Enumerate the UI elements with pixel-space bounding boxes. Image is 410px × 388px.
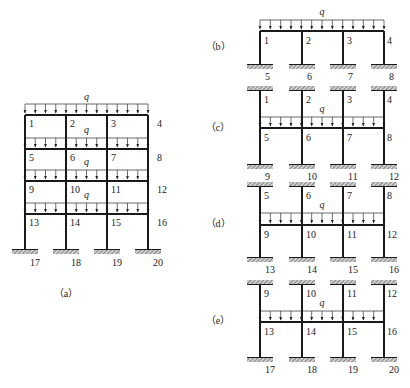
arrowhead-icon: [372, 123, 375, 127]
arrowhead-icon: [290, 220, 293, 224]
arrowhead-icon: [352, 123, 355, 127]
node-number: 10: [70, 184, 80, 195]
arrowhead-icon: [300, 26, 303, 30]
subframe-d: q5913610147111581216（d）: [206, 182, 400, 275]
bottom-node-number: 7: [348, 71, 353, 82]
arrowhead-icon: [372, 220, 375, 224]
node-number: 3: [111, 118, 116, 129]
arrowhead-icon: [95, 209, 98, 213]
base-node-number: 20: [153, 257, 163, 268]
beam-node-number: 11: [347, 229, 357, 240]
arrowhead-icon: [290, 26, 293, 30]
arrowhead-icon: [269, 220, 272, 224]
arrowhead-icon: [362, 123, 365, 127]
bottom-node-number: 10: [307, 171, 317, 182]
load-q-label: q: [84, 124, 89, 135]
arrowhead-icon: [34, 176, 37, 180]
arrowhead-icon: [321, 123, 324, 127]
load-q-label: q: [84, 156, 89, 167]
arrowhead-icon: [279, 317, 282, 321]
bottom-node-number: 16: [389, 264, 399, 275]
arrowhead-icon: [116, 176, 119, 180]
support-hatch-icon: [371, 182, 397, 186]
arrowhead-icon: [44, 209, 47, 213]
arrowhead-icon: [331, 123, 334, 127]
node-number: 12: [157, 184, 167, 195]
support-hatch-icon: [94, 250, 120, 254]
beam-node-number: 10: [306, 229, 316, 240]
arrowhead-icon: [310, 123, 313, 127]
arrowhead-icon: [136, 144, 139, 148]
support-hatch-icon: [247, 280, 273, 284]
arrowhead-icon: [54, 209, 57, 213]
arrowhead-icon: [54, 176, 57, 180]
node-number: 11: [111, 184, 121, 195]
node-number: 1: [29, 118, 34, 129]
arrowhead-icon: [34, 110, 37, 114]
arrowhead-icon: [279, 220, 282, 224]
arrowhead-icon: [116, 209, 119, 213]
support-hatch-icon: [330, 280, 356, 284]
arrowhead-icon: [352, 26, 355, 30]
arrowhead-icon: [126, 176, 129, 180]
arrowhead-icon: [44, 144, 47, 148]
subframes-group: q15263748（b）q159261037114812（c）q59136101…: [206, 6, 400, 375]
arrowhead-icon: [279, 123, 282, 127]
node-number: 6: [70, 152, 75, 163]
node-number: 5: [29, 152, 34, 163]
arrowhead-icon: [106, 110, 109, 114]
arrowhead-icon: [85, 110, 88, 114]
support-hatch-icon: [371, 258, 397, 262]
base-node-number: 19: [112, 257, 122, 268]
beam-node-number: 8: [387, 132, 392, 143]
beam-node-number: 16: [387, 326, 397, 337]
support-hatch-icon: [53, 250, 79, 254]
arrowhead-icon: [269, 317, 272, 321]
support-hatch-icon: [330, 65, 356, 69]
node-number: 7: [111, 152, 116, 163]
arrowhead-icon: [24, 110, 27, 114]
beam-node-number: 13: [264, 326, 274, 337]
arrowhead-icon: [331, 317, 334, 321]
arrowhead-icon: [75, 209, 78, 213]
bottom-node-number: 6: [307, 71, 312, 82]
support-hatch-icon: [289, 258, 315, 262]
arrowhead-icon: [310, 26, 313, 30]
top-node-number: 4: [387, 94, 392, 105]
beam-node-number: 12: [387, 229, 397, 240]
support-hatch-icon: [289, 182, 315, 186]
arrowhead-icon: [269, 26, 272, 30]
arrowhead-icon: [34, 209, 37, 213]
arrowhead-icon: [341, 26, 344, 30]
arrowhead-icon: [352, 317, 355, 321]
beam-node-number: 7: [347, 132, 352, 143]
arrowhead-icon: [259, 26, 262, 30]
arrowhead-icon: [65, 110, 68, 114]
arrowhead-icon: [75, 110, 78, 114]
beam-node-number: 6: [306, 132, 311, 143]
bottom-node-number: 14: [307, 264, 317, 275]
bottom-node-number: 11: [348, 171, 358, 182]
bottom-node-number: 9: [265, 171, 270, 182]
arrowhead-icon: [321, 26, 324, 30]
support-hatch-icon: [289, 358, 315, 362]
load-q-label: q: [320, 6, 325, 17]
bottom-node-number: 13: [265, 264, 275, 275]
arrowhead-icon: [85, 176, 88, 180]
figure-a-full-frame: q1234q5678q9101112q1314151617181920（a）: [12, 91, 167, 299]
arrowhead-icon: [34, 144, 37, 148]
load-q-label: q: [84, 189, 89, 200]
support-hatch-icon: [289, 165, 315, 169]
arrowhead-icon: [310, 317, 313, 321]
support-hatch-icon: [371, 86, 397, 90]
arrowhead-icon: [95, 144, 98, 148]
arrowhead-icon: [362, 26, 365, 30]
arrowhead-icon: [372, 317, 375, 321]
beam-node-number: 15: [347, 326, 357, 337]
support-hatch-icon: [371, 165, 397, 169]
arrowhead-icon: [116, 144, 119, 148]
support-hatch-icon: [289, 86, 315, 90]
node-number: 9: [29, 184, 34, 195]
beam-node-number: 2: [306, 35, 311, 46]
top-node-number: 7: [347, 190, 352, 201]
